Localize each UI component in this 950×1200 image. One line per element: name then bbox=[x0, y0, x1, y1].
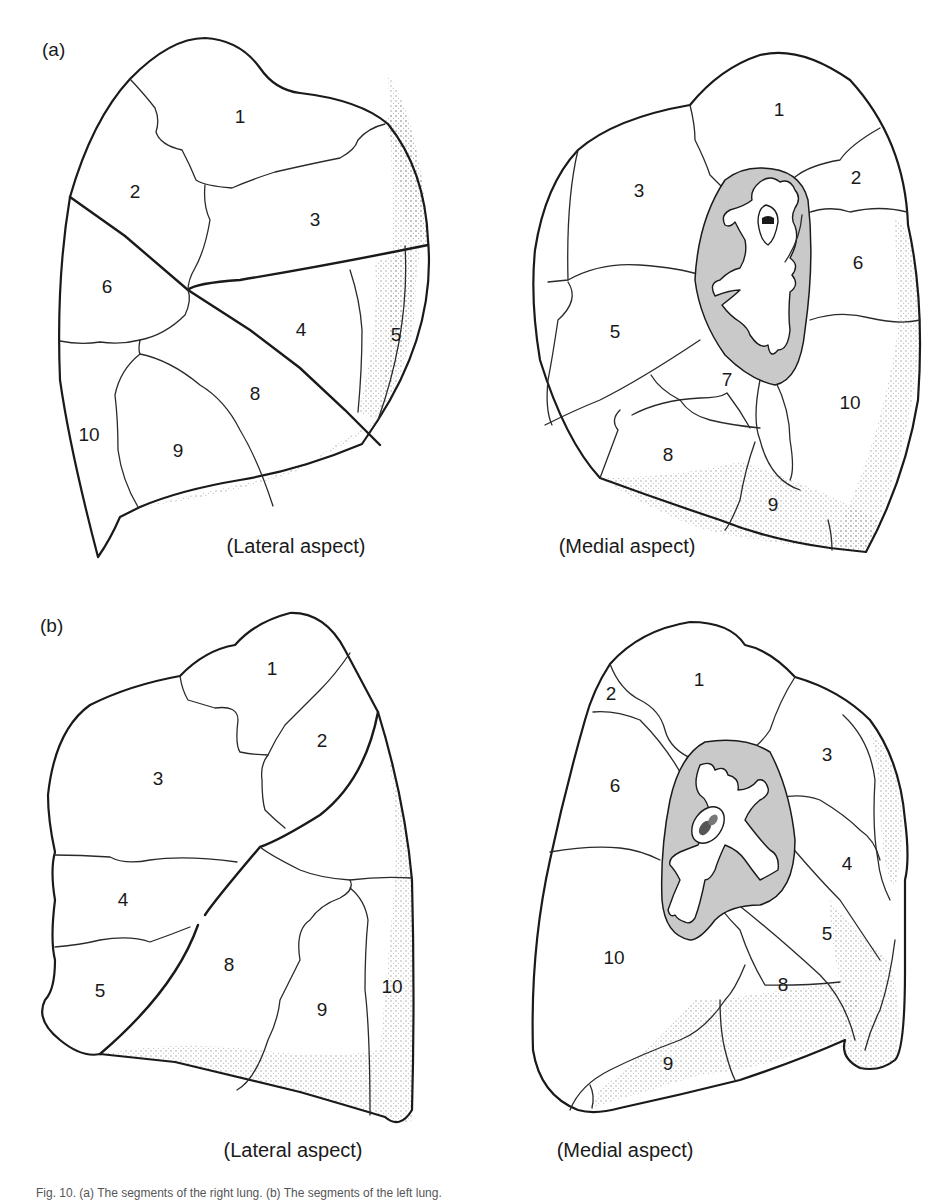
segment-label-a-lateral-6: 6 bbox=[102, 276, 113, 297]
lung-outline bbox=[42, 613, 413, 1122]
left-lung-lateral-diagram bbox=[42, 613, 413, 1123]
segment-label-b-lateral-2: 2 bbox=[317, 730, 328, 751]
segment-label-a-lateral-9: 9 bbox=[173, 440, 184, 461]
segment-label-a-lateral-2: 2 bbox=[130, 181, 141, 202]
segment-label-b-medial-8: 8 bbox=[778, 974, 789, 995]
segment-label-b-lateral-3: 3 bbox=[153, 768, 164, 789]
segment-label-a-lateral-3: 3 bbox=[310, 209, 321, 230]
segment-label-a-medial-2: 2 bbox=[851, 167, 862, 188]
segment-label-b-medial-3: 3 bbox=[822, 744, 833, 765]
right-lung-medial-diagram bbox=[533, 53, 920, 552]
figure-caption: Fig. 10. (a) The segments of the right l… bbox=[36, 1186, 442, 1200]
aspect-label-b-medial: (Medial aspect) bbox=[557, 1139, 694, 1161]
segment-label-a-medial-7: 7 bbox=[722, 369, 733, 390]
segment-label-b-medial-5: 5 bbox=[822, 923, 833, 944]
aspect-label-a-lateral: (Lateral aspect) bbox=[227, 535, 366, 557]
segment-label-b-medial-6: 6 bbox=[610, 775, 621, 796]
segment-label-b-lateral-4: 4 bbox=[118, 889, 129, 910]
segment-label-a-lateral-4: 4 bbox=[296, 319, 307, 340]
segment-label-b-lateral-8: 8 bbox=[224, 954, 235, 975]
segment-label-a-lateral-1: 1 bbox=[235, 106, 246, 127]
aspect-label-a-medial: (Medial aspect) bbox=[559, 535, 696, 557]
aspect-label-b-lateral: (Lateral aspect) bbox=[224, 1139, 363, 1161]
segment-label-a-lateral-10: 10 bbox=[78, 424, 99, 445]
segment-label-a-medial-10: 10 bbox=[839, 392, 860, 413]
segment-label-b-medial-1: 1 bbox=[694, 669, 705, 690]
segment-label-b-medial-9: 9 bbox=[663, 1053, 674, 1074]
segment-label-a-medial-3: 3 bbox=[634, 180, 645, 201]
segment-label-b-lateral-9: 9 bbox=[317, 999, 328, 1020]
panel-label-a: (a) bbox=[42, 39, 65, 60]
segment-label-b-lateral-10: 10 bbox=[381, 976, 402, 997]
segment-label-a-medial-1: 1 bbox=[774, 99, 785, 120]
segment-label-a-lateral-5: 5 bbox=[391, 324, 402, 345]
panel-label-b: (b) bbox=[40, 615, 63, 636]
segment-label-b-medial-10: 10 bbox=[603, 947, 624, 968]
segment-label-a-medial-5: 5 bbox=[610, 321, 621, 342]
segment-label-a-medial-6: 6 bbox=[853, 252, 864, 273]
segment-label-b-medial-4: 4 bbox=[842, 853, 853, 874]
segment-label-a-lateral-8: 8 bbox=[250, 383, 261, 404]
segment-label-a-medial-9: 9 bbox=[768, 494, 779, 515]
segment-label-a-medial-8: 8 bbox=[663, 444, 674, 465]
segment-label-b-medial-2: 2 bbox=[606, 683, 617, 704]
segment-label-b-lateral-5: 5 bbox=[95, 980, 106, 1001]
segment-label-b-lateral-1: 1 bbox=[267, 658, 278, 679]
